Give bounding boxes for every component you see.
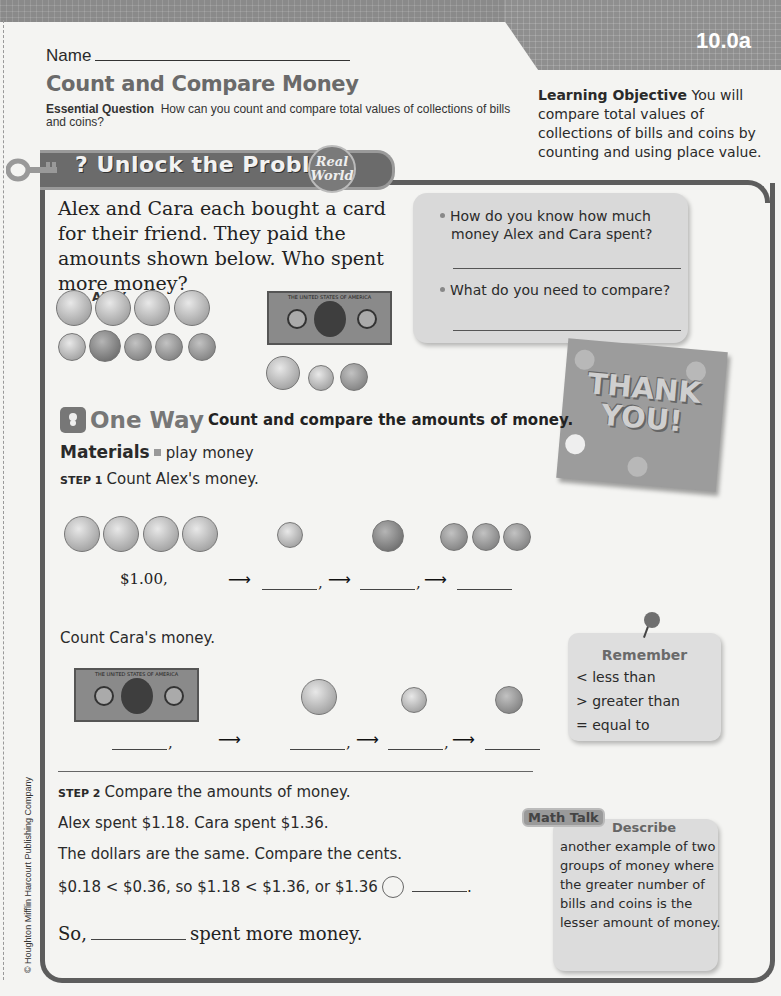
quarter-coin (95, 290, 131, 326)
comma: , (346, 734, 351, 752)
penny-coin (340, 363, 368, 391)
remember-item: = equal to (576, 717, 650, 733)
one-way-heading: One WayCount and compare the amounts of … (60, 407, 573, 433)
quarter-coin (143, 516, 179, 552)
first-amount: $1.00, (120, 570, 168, 588)
bullet-icon (440, 213, 445, 218)
bill-seal (94, 686, 114, 706)
dime-coin (277, 522, 303, 548)
cara-count-heading: Count Cara's money. (60, 629, 215, 647)
dime-coin (58, 333, 86, 361)
key-icon (6, 158, 62, 182)
bill-portrait (121, 678, 153, 714)
step2-heading: STEP 2Compare the amounts of money. (58, 783, 350, 801)
answer-line[interactable] (453, 268, 681, 269)
arrow-right-icon: ⟶ (218, 730, 241, 749)
answer-blank[interactable] (360, 588, 415, 590)
question-mark-icon: ? (75, 152, 88, 177)
question-item: What do you need to compare? (451, 281, 691, 299)
lesson-number: 10.0a (696, 28, 751, 54)
arrow-right-icon: ⟶ (356, 730, 379, 749)
quarter-coin (174, 290, 210, 326)
math-talk-lead: Describe (612, 820, 676, 835)
bill-seal (287, 309, 307, 329)
bill-seal (357, 309, 377, 329)
bullet-icon (440, 287, 445, 292)
answer-blank[interactable] (290, 748, 345, 750)
nickel-coin (372, 520, 404, 552)
real-world-badge: Real World (308, 145, 356, 193)
essential-question: Essential Question How can you count and… (46, 103, 516, 129)
quarter-coin (182, 516, 218, 552)
quarter-coin (134, 290, 170, 326)
comma: , (318, 574, 323, 592)
comma: , (416, 574, 421, 592)
quarter-coin (56, 290, 92, 326)
section-divider (58, 771, 533, 772)
nickel-coin (89, 330, 121, 362)
arrow-right-icon: ⟶ (228, 570, 251, 589)
arrow-right-icon: ⟶ (328, 570, 351, 589)
dollar-bill: THE UNITED STATES OF AMERICA (267, 291, 392, 345)
remember-item: < less than (576, 669, 656, 685)
learning-objective-label: Learning Objective (538, 87, 687, 103)
answer-blank[interactable] (91, 939, 186, 940)
answer-blank[interactable] (262, 588, 317, 590)
penny-coin (503, 523, 531, 551)
penny-coin (495, 686, 523, 714)
answer-blank[interactable] (457, 588, 512, 590)
compare-line: $0.18 < $0.36, so $1.18 < $1.36, or $1.3… (58, 876, 472, 898)
penny-coin (155, 333, 183, 361)
question-item: How do you know how much money Alex and … (451, 207, 691, 243)
remember-note: Remember < less than > greater than = eq… (568, 633, 721, 741)
flower-icon (564, 433, 586, 455)
quarter-coin (103, 516, 139, 552)
remember-item: > greater than (576, 693, 680, 709)
bill-portrait (314, 301, 346, 337)
learning-objective: Learning Objective You will compare tota… (538, 86, 773, 162)
arrow-right-icon: ⟶ (424, 570, 447, 589)
thank-you-card-image: THANK YOU! (556, 338, 728, 491)
spent-line: Alex spent $1.18. Cara spent $1.36. (58, 814, 328, 832)
name-input-line[interactable] (95, 46, 350, 61)
penny-coin (440, 523, 468, 551)
penny-coin (124, 333, 152, 361)
dollar-bill: THE UNITED STATES OF AMERICA (74, 668, 199, 722)
comparison-symbol-circle[interactable] (382, 876, 404, 898)
conclusion-line: So,spent more money. (58, 923, 362, 944)
card-text: THANK YOU! (571, 367, 716, 439)
answer-blank[interactable] (485, 748, 540, 750)
math-talk-tag: Math Talk (522, 808, 605, 827)
copyright: © Houghton Mifflin Harcourt Publishing C… (23, 777, 33, 973)
question-box: How do you know how much money Alex and … (413, 193, 688, 343)
penny-coin (472, 523, 500, 551)
dime-coin (401, 687, 427, 713)
page-title: Count and Compare Money (46, 72, 359, 96)
pushpin-icon (644, 612, 660, 628)
bullet-square-icon (154, 449, 161, 456)
name-field: Name (46, 46, 350, 66)
materials-line: Materialsplay money (60, 442, 254, 462)
step1-heading: STEP 1Count Alex's money. (60, 470, 259, 488)
answer-blank[interactable] (412, 891, 467, 892)
quarter-coin (64, 516, 100, 552)
cut-line (3, 20, 4, 980)
dollars-line: The dollars are the same. Compare the ce… (58, 845, 402, 863)
quarter-coin (301, 679, 337, 715)
answer-blank[interactable] (388, 748, 443, 750)
answer-line[interactable] (453, 330, 681, 331)
keyhole-icon (60, 407, 86, 433)
arrow-right-icon: ⟶ (452, 730, 475, 749)
comma: , (444, 734, 449, 752)
name-label: Name (46, 46, 91, 65)
penny-coin (188, 333, 216, 361)
math-talk-body: another example of two groups of money w… (560, 837, 730, 932)
essential-question-label: Essential Question (46, 102, 154, 116)
flower-icon (627, 456, 649, 478)
dime-coin (308, 365, 334, 391)
answer-blank[interactable] (112, 748, 167, 750)
problem-text: Alex and Cara each bought a card for the… (58, 196, 403, 296)
quarter-coin (266, 356, 300, 390)
bill-seal (164, 686, 184, 706)
comma: , (168, 734, 173, 752)
